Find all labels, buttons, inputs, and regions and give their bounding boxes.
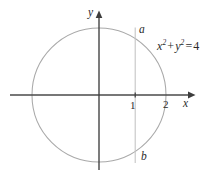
equation-plus: + — [166, 39, 175, 53]
equation-rhs: 4 — [193, 39, 199, 53]
equation-equals: = — [184, 39, 193, 53]
circle-equation: x2+y2=4 — [157, 40, 199, 52]
y-axis-label: y — [88, 7, 93, 19]
x-tick-label-two: 2 — [163, 99, 169, 110]
y-axis-arrowhead — [96, 11, 103, 19]
x-tick-label-one: 1 — [130, 100, 136, 111]
x-axis-arrowhead — [188, 92, 196, 99]
point-label-a: a — [139, 24, 145, 36]
point-label-b: b — [141, 151, 147, 163]
figure-canvas — [0, 0, 220, 176]
circle-figure: y x 1 2 a b x2+y2=4 — [0, 0, 220, 176]
x-axis-label: x — [183, 98, 188, 110]
